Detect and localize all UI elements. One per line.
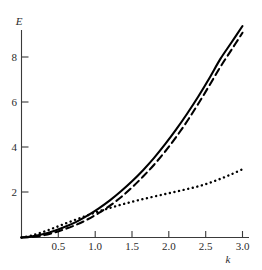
series-solid-curve: [22, 26, 243, 238]
series-dotted-curve: [22, 169, 243, 237]
x-tick-label-4: 2.5: [199, 240, 213, 252]
y-axis-ticks: [22, 57, 29, 192]
x-tick-label-2: 1.5: [125, 240, 139, 252]
y-tick-label-4: 4: [12, 141, 18, 153]
x-axis-title: k: [226, 253, 232, 265]
y-tick-label-2: 2: [12, 186, 18, 198]
x-tick-label-3: 2.0: [162, 240, 176, 252]
x-tick-label-5: 3.0: [236, 240, 250, 252]
x-tick-label-0: 0.5: [51, 240, 65, 252]
series-dashed-curve: [22, 33, 243, 238]
chart-figure: 8 6 4 2 E 0.5 1.0 1.5 2.0 2.5 3.0 k: [0, 0, 262, 270]
y-tick-label-6: 6: [12, 96, 18, 108]
x-axis-ticks: [58, 231, 242, 238]
y-axis-title: E: [15, 15, 23, 27]
y-tick-label-8: 8: [12, 51, 18, 63]
plot-canvas: 8 6 4 2 E 0.5 1.0 1.5 2.0 2.5 3.0 k: [0, 0, 262, 270]
x-tick-label-1: 1.0: [88, 240, 102, 252]
